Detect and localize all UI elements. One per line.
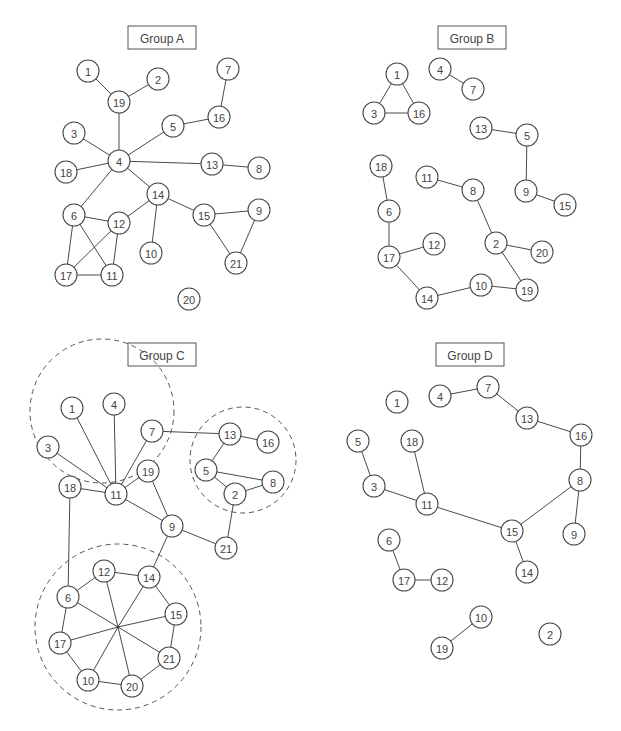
node: 14 [516, 561, 538, 583]
node: 21 [225, 252, 247, 274]
node-label: 21 [220, 543, 232, 555]
node: 2 [224, 483, 246, 505]
node: 5 [195, 459, 217, 481]
node: 15 [165, 603, 187, 625]
node-label: 7 [225, 64, 231, 76]
node-label: 19 [521, 285, 533, 297]
node-label: 19 [113, 97, 125, 109]
node: 19 [431, 637, 453, 659]
node-label: 1 [85, 66, 91, 78]
node: 21 [158, 647, 180, 669]
group-c: Group C147319181113165829211214615172110… [30, 339, 296, 710]
node: 10 [470, 606, 492, 628]
node-label: 6 [386, 535, 392, 547]
node-label: 4 [116, 156, 122, 168]
node: 4 [429, 385, 451, 407]
node: 8 [462, 179, 484, 201]
node: 19 [108, 91, 130, 113]
node-label: 15 [506, 526, 518, 538]
node: 5 [516, 124, 538, 146]
node: 8 [248, 157, 270, 179]
node: 18 [401, 430, 423, 452]
edge [68, 487, 70, 597]
node: 3 [37, 436, 59, 458]
node: 4 [108, 150, 130, 172]
node-label: 19 [436, 643, 448, 655]
node: 11 [416, 493, 438, 515]
node: 10 [140, 242, 162, 264]
node: 5 [347, 430, 369, 452]
node: 19 [516, 279, 538, 301]
node-label: 5 [355, 436, 361, 448]
node-label: 9 [256, 205, 262, 217]
node: 2 [539, 623, 561, 645]
node-label: 12 [436, 575, 448, 587]
node: 10 [77, 669, 99, 691]
node-label: 18 [406, 436, 418, 448]
node-label: 13 [475, 123, 487, 135]
node-label: 12 [113, 218, 125, 230]
node-label: 9 [571, 529, 577, 541]
node-label: 18 [60, 167, 72, 179]
node-label: 16 [575, 430, 587, 442]
node-label: 13 [224, 429, 236, 441]
node: 6 [378, 200, 400, 222]
node: 12 [108, 212, 130, 234]
node-label: 4 [437, 391, 443, 403]
node-label: 9 [169, 521, 175, 533]
node-label: 1 [394, 397, 400, 409]
node-label: 1 [69, 403, 75, 415]
node: 17 [55, 264, 77, 286]
node: 3 [363, 102, 385, 124]
node-label: 5 [203, 465, 209, 477]
group-title: Group D [447, 349, 493, 363]
group-title: Group C [139, 349, 185, 363]
node: 2 [147, 68, 169, 90]
node-label: 11 [106, 270, 117, 282]
node: 17 [49, 632, 71, 654]
node-label: 8 [577, 475, 583, 487]
node-label: 16 [213, 112, 225, 124]
node-label: 17 [60, 270, 72, 282]
node: 6 [378, 529, 400, 551]
node-label: 17 [383, 252, 395, 264]
node: 15 [554, 194, 576, 216]
node-label: 13 [521, 413, 533, 425]
node-label: 11 [421, 499, 432, 511]
group-title: Group B [450, 32, 495, 46]
node: 13 [470, 117, 492, 139]
node: 6 [57, 586, 79, 608]
node: 4 [103, 393, 125, 415]
node: 16 [208, 106, 230, 128]
node: 9 [563, 523, 585, 545]
node: 13 [201, 153, 223, 175]
node: 16 [408, 102, 430, 124]
node: 16 [257, 431, 279, 453]
node-label: 7 [149, 426, 155, 438]
node-label: 17 [398, 575, 410, 587]
node: 11 [105, 483, 127, 505]
node: 20 [178, 288, 200, 310]
node: 3 [363, 475, 385, 497]
node: 20 [531, 241, 553, 263]
node-label: 2 [493, 238, 499, 250]
node: 13 [516, 407, 538, 429]
node-label: 18 [375, 161, 387, 173]
node-label: 10 [475, 612, 487, 624]
node: 17 [393, 569, 415, 591]
node-label: 6 [65, 592, 71, 604]
node: 2 [485, 232, 507, 254]
node-label: 5 [524, 130, 530, 142]
node-label: 19 [142, 466, 154, 478]
node: 9 [248, 199, 270, 221]
node-label: 21 [230, 258, 242, 270]
node-label: 14 [421, 293, 433, 305]
edge [427, 504, 512, 531]
node-label: 20 [183, 294, 195, 306]
node-label: 2 [155, 74, 161, 86]
node-label: 11 [110, 489, 121, 501]
node: 11 [416, 166, 438, 188]
node: 15 [193, 204, 215, 226]
node: 18 [59, 476, 81, 498]
node: 7 [141, 420, 163, 442]
